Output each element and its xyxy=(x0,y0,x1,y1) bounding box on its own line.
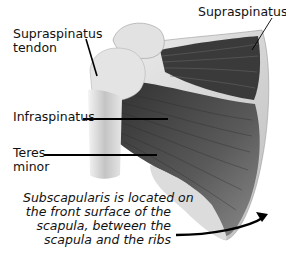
label-line: minor xyxy=(13,160,49,174)
label-supraspinatus: Supraspinatus xyxy=(198,5,286,19)
label-line: Teres xyxy=(13,146,49,160)
note-line: scapula, between the xyxy=(23,219,171,233)
humerus xyxy=(88,89,122,178)
subscapularis-note: Subscapularis is located on the front su… xyxy=(23,191,171,247)
note-line: the front surface of the xyxy=(23,205,171,219)
note-line: Subscapularis is located on xyxy=(23,191,171,205)
label-line: Supraspinatus xyxy=(13,27,102,41)
label-supraspinatus-tendon: Supraspinatus tendon xyxy=(13,27,102,55)
label-teres-minor: Teres minor xyxy=(13,146,49,174)
label-line: tendon xyxy=(13,41,102,55)
note-line: scapula and the ribs xyxy=(23,233,171,247)
label-infraspinatus: Infraspinatus xyxy=(13,110,95,124)
